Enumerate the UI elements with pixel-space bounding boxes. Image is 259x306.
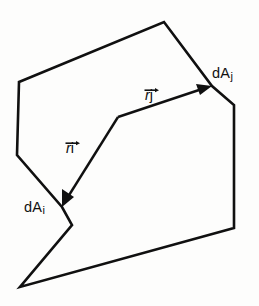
vector-rj-line: [118, 88, 205, 117]
enclosure-outline: [17, 22, 234, 287]
vector-rj-arrowhead: [196, 84, 212, 95]
label-rj-subscript: j: [150, 87, 153, 103]
label-area-element-i: dAi: [24, 200, 45, 216]
vector-ri-glyph-stack: ri: [66, 141, 74, 156]
vector-rj-glyph-stack: rj: [145, 88, 153, 103]
label-dAj-subscript: j: [231, 70, 234, 82]
label-area-element-j: dAj: [212, 66, 233, 82]
label-vector-ri: ri: [66, 141, 74, 156]
label-dAi-base: dA: [24, 199, 42, 215]
label-vector-rj: rj: [145, 88, 153, 103]
enclosure-diagram-svg: [0, 0, 259, 306]
label-ri-subscript: i: [71, 140, 74, 156]
vector-ri-line: [66, 117, 118, 200]
figure-container: dAj dAi rj ri: [0, 0, 259, 306]
label-dAj-base: dA: [212, 65, 230, 81]
label-dAi-subscript: i: [43, 204, 46, 216]
